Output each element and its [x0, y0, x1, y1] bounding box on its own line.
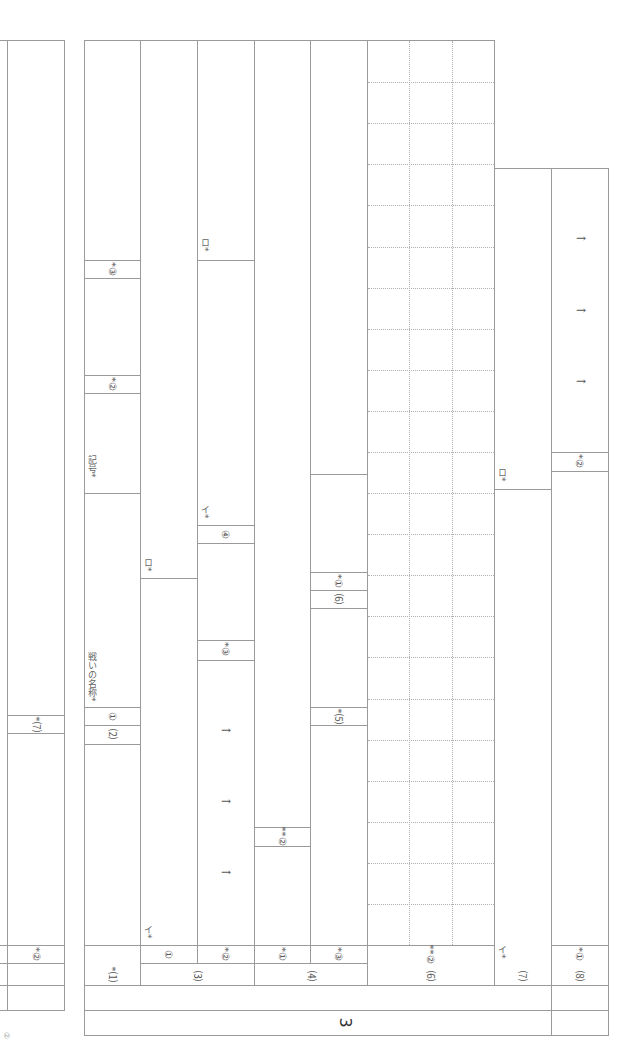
answer-area-left[interactable] — [8, 41, 64, 715]
mark-ro-2: ロ* — [200, 238, 210, 252]
answer-area-c3-1[interactable] — [141, 41, 197, 578]
writing-grid[interactable] — [368, 41, 494, 945]
label-star3-c3: *③ — [220, 637, 230, 661]
label-group-6: ⑹ — [425, 966, 435, 986]
label-c3-2: *② — [220, 942, 230, 966]
mark-i: イ* — [143, 925, 153, 939]
label-group-3: ⑶ — [192, 966, 202, 986]
arrow-icon: → — [574, 232, 588, 244]
arrow-icon: → — [219, 866, 233, 878]
label-c3-1: ① — [163, 944, 173, 964]
arrow-icon: → — [219, 795, 233, 807]
label-q2: *② — [31, 943, 41, 965]
corner-mark: ② — [1, 1029, 11, 1039]
answer-area-c7[interactable] — [495, 169, 551, 489]
arrow-icon: → — [219, 724, 233, 736]
label-star3: *③ — [107, 257, 117, 281]
label-sub1: ① — [107, 706, 117, 726]
label-c4-1: *① — [277, 942, 287, 966]
label-star2: *② — [107, 372, 117, 396]
arrow-icon: → — [574, 304, 588, 316]
label-war-name: 戦いの名称* — [87, 652, 97, 702]
mark-i-2: イ* — [200, 505, 210, 519]
answer-area-c4-1[interactable] — [255, 41, 310, 827]
label-group-7: ⑺ — [517, 966, 527, 986]
section-number: 3 — [336, 1017, 355, 1027]
label-symbol: 記号* — [87, 455, 97, 478]
label-c8-footer: *① — [574, 942, 584, 966]
mark-i-7: イ* — [497, 945, 507, 959]
label-6: ⑹ — [333, 589, 343, 609]
label-group-4: ⑷ — [306, 966, 316, 986]
label-group-8: ⑻ — [574, 966, 584, 986]
label-sub2: ⑵ — [107, 724, 117, 744]
label-star2-c8: *② — [574, 449, 584, 473]
answer-area-c1[interactable] — [85, 41, 140, 260]
arrow-icon: → — [574, 375, 588, 387]
label-q7: *⑺ — [31, 713, 41, 735]
label-4: ④ — [220, 524, 230, 544]
label-star5: *⑸ — [333, 704, 343, 728]
label-c4-3: *③ — [333, 942, 343, 966]
label-q1-footer: *⑴ — [107, 962, 117, 986]
